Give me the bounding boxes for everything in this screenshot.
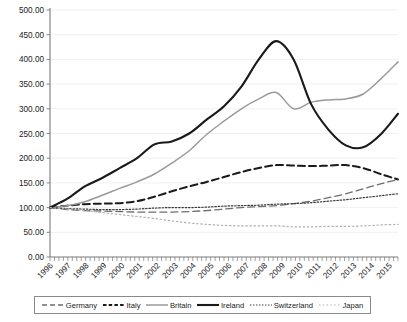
legend-label-japan: Japan <box>343 301 364 310</box>
data-series-group <box>50 41 398 227</box>
svg-text:1996: 1996 <box>36 261 56 281</box>
svg-text:0.00: 0.00 <box>28 253 44 262</box>
svg-text:50.00: 50.00 <box>24 228 45 237</box>
legend-item-italy[interactable]: Italy <box>103 301 141 310</box>
svg-text:2008: 2008 <box>250 261 270 281</box>
legend-label-britain: Britain <box>170 301 192 310</box>
svg-text:100.00: 100.00 <box>19 204 44 213</box>
legend-item-britain[interactable]: Britain <box>146 301 192 310</box>
chart-plot-area: 0.0050.00100.00150.00200.00250.00300.003… <box>0 0 407 292</box>
svg-text:2009: 2009 <box>268 261 288 281</box>
svg-text:2000: 2000 <box>107 261 127 281</box>
legend-item-switzerland[interactable]: Switzerland <box>250 301 313 310</box>
svg-text:250.00: 250.00 <box>19 130 44 139</box>
svg-text:200.00: 200.00 <box>19 154 44 163</box>
svg-text:2001: 2001 <box>125 261 145 281</box>
svg-text:2005: 2005 <box>196 261 216 281</box>
svg-text:2010: 2010 <box>286 261 306 281</box>
legend-label-switzerland: Switzerland <box>274 301 313 310</box>
x-axis-tick-labels: 1996199719981999200020012002200320042005… <box>36 261 395 281</box>
x-axis <box>50 257 398 261</box>
svg-text:1998: 1998 <box>71 261 91 281</box>
legend-swatch-britain <box>146 301 168 309</box>
svg-text:2007: 2007 <box>232 261 252 281</box>
y-axis <box>47 8 51 257</box>
svg-text:1999: 1999 <box>89 261 109 281</box>
chart-legend: Germany Italy Britain Ireland Switzerlan… <box>34 296 371 314</box>
svg-text:300.00: 300.00 <box>19 105 44 114</box>
svg-text:2004: 2004 <box>178 261 198 281</box>
svg-text:2003: 2003 <box>161 261 181 281</box>
svg-text:350.00: 350.00 <box>19 80 44 89</box>
svg-text:2011: 2011 <box>304 261 323 280</box>
legend-item-germany[interactable]: Germany <box>42 301 97 310</box>
legend-item-japan[interactable]: Japan <box>319 301 364 310</box>
svg-text:1997: 1997 <box>54 261 74 281</box>
svg-text:2012: 2012 <box>321 261 341 281</box>
line-chart: 0.0050.00100.00150.00200.00250.00300.003… <box>0 0 407 322</box>
legend-item-ireland[interactable]: Ireland <box>197 301 244 310</box>
legend-swatch-japan <box>319 301 341 309</box>
svg-text:2013: 2013 <box>339 261 359 281</box>
legend-swatch-switzerland <box>250 301 272 309</box>
svg-text:450.00: 450.00 <box>19 31 44 40</box>
svg-text:2015: 2015 <box>375 261 395 281</box>
svg-text:2014: 2014 <box>357 261 377 281</box>
legend-swatch-germany <box>42 301 64 309</box>
series-line-japan <box>50 208 398 227</box>
svg-text:2006: 2006 <box>214 261 234 281</box>
legend-swatch-italy <box>103 301 125 309</box>
svg-text:400.00: 400.00 <box>19 55 44 64</box>
legend-label-germany: Germany <box>66 301 97 310</box>
legend-swatch-ireland <box>197 301 219 309</box>
y-axis-tick-labels: 0.0050.00100.00150.00200.00250.00300.003… <box>19 6 44 262</box>
svg-text:500.00: 500.00 <box>19 6 44 15</box>
series-line-italy <box>50 165 398 208</box>
legend-label-italy: Italy <box>127 301 141 310</box>
svg-text:2002: 2002 <box>143 261 163 281</box>
legend-label-ireland: Ireland <box>221 301 244 310</box>
svg-text:150.00: 150.00 <box>19 179 44 188</box>
